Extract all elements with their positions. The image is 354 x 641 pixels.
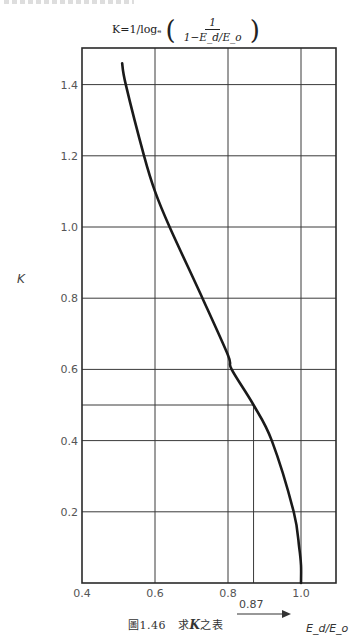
figure-caption: 圖1.46 求K之表 bbox=[128, 616, 223, 632]
caption-prefix: 求 bbox=[178, 619, 190, 632]
data-curve-k bbox=[122, 63, 301, 583]
y-tick-label: 0.6 bbox=[61, 363, 79, 376]
y-tick-label: 1.4 bbox=[61, 79, 79, 92]
reference-value-label: 0.87 bbox=[239, 598, 264, 611]
chart-plot-area: 0.20.40.60.81.01.21.40.40.60.81.0 bbox=[0, 0, 354, 641]
y-tick-label: 0.8 bbox=[61, 292, 79, 305]
x-axis-label: E_d/E_o bbox=[306, 622, 348, 635]
y-tick-label: 1.2 bbox=[61, 150, 79, 163]
y-tick-label: 0.4 bbox=[61, 435, 79, 448]
caption-suffix: 之表 bbox=[200, 619, 223, 632]
caption-variable: K bbox=[190, 618, 201, 632]
x-tick-label: 0.8 bbox=[219, 587, 237, 600]
x-tick-label: 1.0 bbox=[292, 587, 310, 600]
y-tick-label: 0.2 bbox=[61, 506, 79, 519]
figure-number: 圖1.46 bbox=[128, 619, 166, 632]
y-axis-label: K bbox=[17, 272, 25, 286]
x-tick-label: 0.4 bbox=[73, 587, 91, 600]
x-tick-label: 0.6 bbox=[146, 587, 164, 600]
x-axis-arrow-icon bbox=[282, 610, 291, 618]
y-tick-label: 1.0 bbox=[61, 221, 79, 234]
